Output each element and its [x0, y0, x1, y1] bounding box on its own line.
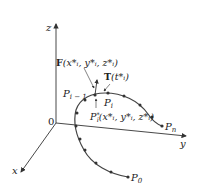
x-axis: [21, 123, 56, 172]
partition-points: [75, 91, 164, 178]
field-label: F(x*ᵢ, y*ᵢ, z*ᵢ): [56, 57, 118, 68]
point-label-end: Pn: [164, 121, 177, 134]
curve-c: [75, 93, 162, 177]
tangent-label: T(t*ᵢ): [104, 71, 129, 82]
point-label-start: P0: [130, 172, 143, 185]
field-vector-arrow: [95, 80, 97, 95]
y-axis-label: y: [179, 138, 186, 149]
point-label-prev: Pi − 1: [62, 88, 87, 101]
sample-point-label: P*i(x*ᵢ, y*ᵢ, z*ᵢ): [89, 111, 154, 124]
tangent-label-pointer: [104, 84, 110, 91]
field-label-pointer: [84, 68, 94, 88]
origin-label: 0: [48, 116, 54, 127]
point-label-current: Pi: [103, 97, 113, 110]
x-axis-label: x: [12, 165, 18, 176]
z-axis-label: z: [45, 22, 52, 33]
diagram-canvas: z 0 y x F(x*ᵢ, y*ᵢ, z*ᵢ) T(t*ᵢ) Pi − 1: [0, 0, 202, 193]
